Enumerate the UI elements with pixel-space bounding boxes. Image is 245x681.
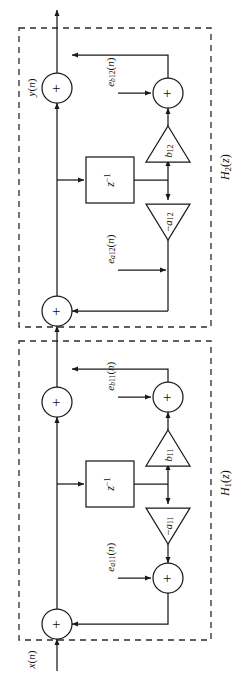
adder-h2-noise-b-plus: + — [163, 86, 171, 101]
block-diagram-svg — [0, 0, 245, 681]
gain-b12-label: b12 — [163, 137, 175, 165]
gain-b11-label: b11 — [163, 441, 175, 469]
adder-h2-input-plus: + — [52, 304, 60, 319]
figure-canvas: + + + + + + + y(n) x(n) H2(z) H1(z) z−1 … — [0, 0, 245, 681]
h1-feedback-wire — [72, 593, 168, 624]
h2-noise-return — [72, 55, 168, 78]
noise-eb12-label: eb12(n) — [105, 45, 117, 99]
h1-delay-label: z−1 — [104, 468, 116, 500]
h1-noise-return — [72, 369, 168, 382]
output-label: y(n) — [26, 71, 37, 105]
adder-h1-noise-b-plus: + — [163, 390, 171, 405]
h1-section-label: H1(z) — [219, 461, 233, 505]
input-label: x(n) — [26, 643, 37, 677]
gain-a12-label: −a12 — [163, 206, 175, 238]
adder-h1-noise-a-plus: + — [163, 571, 171, 586]
adder-h1-output-plus: + — [52, 395, 60, 410]
noise-ea11-label: ea11(n) — [105, 530, 117, 584]
noise-eb11-label: eb11(n) — [105, 349, 117, 403]
h2-delay-label: z−1 — [104, 164, 116, 196]
gain-a11-label: −a11 — [163, 510, 175, 542]
noise-ea12-label: ea12(n) — [105, 222, 117, 276]
h2-section-label: H2(z) — [219, 145, 233, 189]
adder-h1-input-plus: + — [52, 617, 60, 632]
adder-h2-output-plus: + — [52, 81, 60, 96]
